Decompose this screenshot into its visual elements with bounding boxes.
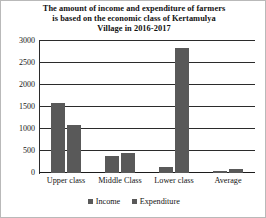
bar-group	[201, 41, 255, 173]
x-label-middle-class: Middle Class	[93, 176, 147, 185]
x-label-average: Average	[201, 176, 255, 185]
y-tick-label-1500: 1500	[1, 103, 35, 111]
chart-title: The amount of income and expenditure of …	[11, 4, 257, 35]
chart-legend: IncomeExpenditure	[1, 197, 266, 206]
x-label-upper-class: Upper class	[39, 176, 93, 185]
legend-item-income: Income	[88, 197, 120, 206]
legend-item-expenditure: Expenditure	[132, 197, 180, 206]
chart-title-line-1: The amount of income and expenditure of …	[11, 4, 257, 14]
bar-group	[147, 41, 201, 173]
chart-title-line-3: Village in 2016-2017	[11, 24, 257, 34]
chart-figure: The amount of income and expenditure of …	[0, 0, 266, 218]
chart-title-line-2: is based on the economic class of Kertam…	[11, 14, 257, 24]
y-tick-label-2500: 2500	[1, 59, 35, 67]
y-axis-tick-labels: 050010001500200025003000	[1, 41, 35, 173]
bar-group	[39, 41, 93, 173]
bar-income-average	[213, 171, 227, 173]
y-tick-label-1000: 1000	[1, 125, 35, 133]
bar-expenditure-middle-class	[121, 153, 135, 173]
legend-swatch-icon	[132, 199, 137, 204]
x-label-lower-class: Lower class	[147, 176, 201, 185]
bar-income-lower-class	[159, 167, 173, 173]
y-tick-label-3000: 3000	[1, 37, 35, 45]
x-axis-category-labels: Upper classMiddle ClassLower classAverag…	[39, 176, 255, 188]
plot-area	[39, 41, 255, 173]
y-tick-label-2000: 2000	[1, 81, 35, 89]
bar-expenditure-upper-class	[67, 125, 81, 173]
legend-swatch-icon	[88, 199, 93, 204]
bar-income-middle-class	[105, 156, 119, 173]
legend-label: Income	[96, 197, 121, 206]
bar-expenditure-lower-class	[175, 48, 189, 173]
legend-label: Expenditure	[140, 197, 180, 206]
bar-income-upper-class	[51, 103, 65, 173]
y-tick-label-0: 0	[1, 169, 35, 177]
bar-expenditure-average	[229, 169, 243, 173]
y-tick-label-500: 500	[1, 147, 35, 155]
bar-group	[93, 41, 147, 173]
